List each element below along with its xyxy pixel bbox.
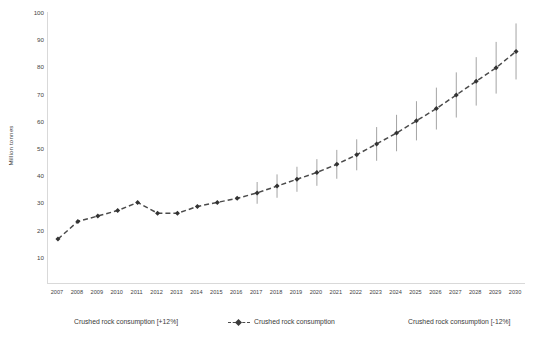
x-tick-label: 2019 [290, 288, 302, 296]
y-tick-label: 20 [22, 226, 44, 233]
x-tick-label: 2015 [210, 288, 222, 296]
legend-label: Crushed rock consumption [+12%] [74, 316, 178, 328]
x-tick-label: 2018 [270, 288, 282, 296]
chart-legend: Crushed rock consumption [+12%]Crushed r… [0, 316, 535, 334]
x-axis-tick-labels: 2007200820092010201120122013201420152016… [47, 288, 525, 300]
y-tick-label: 50 [22, 145, 44, 152]
y-axis-title-label: Million tonnes [8, 125, 15, 165]
x-tick-label: 2029 [489, 288, 501, 296]
y-tick-label: 30 [22, 199, 44, 206]
data-point-marker [314, 170, 319, 175]
x-tick-label: 2023 [369, 288, 381, 296]
data-point-marker [294, 177, 299, 182]
y-tick-label: 80 [22, 63, 44, 70]
x-tick-label: 2020 [310, 288, 322, 296]
x-tick-label: 2011 [131, 288, 143, 296]
data-point-marker [215, 200, 220, 205]
legend-marker-icon [228, 318, 250, 326]
data-point-marker [155, 211, 160, 216]
series-layer [48, 12, 526, 284]
y-tick-label: 90 [22, 36, 44, 43]
x-tick-label: 2009 [91, 288, 103, 296]
main-series-line [58, 51, 516, 239]
x-tick-label: 2027 [449, 288, 461, 296]
data-point-marker [95, 214, 100, 219]
x-tick-label: 2030 [509, 288, 521, 296]
plot-area [47, 12, 525, 284]
x-tick-label: 2021 [330, 288, 342, 296]
y-tick-label: 10 [22, 253, 44, 260]
data-point-marker [175, 211, 180, 216]
x-tick-label: 2013 [170, 288, 182, 296]
crushed-rock-consumption-chart: Million tonnes 102030405060708090100 200… [0, 0, 535, 344]
data-point-marker [195, 204, 200, 209]
legend-entry[interactable]: Crushed rock consumption [+12%] [70, 316, 178, 328]
x-tick-label: 2022 [349, 288, 361, 296]
data-point-marker [275, 184, 280, 189]
x-tick-label: 2028 [469, 288, 481, 296]
x-tick-label: 2012 [150, 288, 162, 296]
x-tick-label: 2014 [190, 288, 202, 296]
x-tick-label: 2016 [230, 288, 242, 296]
data-point-marker [334, 162, 339, 167]
data-point-marker [115, 208, 120, 213]
x-tick-label: 2007 [51, 288, 63, 296]
data-point-marker [255, 190, 260, 195]
x-tick-label: 2026 [429, 288, 441, 296]
x-tick-label: 2017 [250, 288, 262, 296]
legend-label: Crushed rock consumption [-12%] [408, 316, 510, 328]
y-tick-label: 40 [22, 172, 44, 179]
x-tick-label: 2010 [110, 288, 122, 296]
x-tick-label: 2025 [409, 288, 421, 296]
legend-entry[interactable]: Crushed rock consumption [-12%] [404, 316, 510, 328]
x-tick-label: 2008 [71, 288, 83, 296]
x-tick-label: 2024 [389, 288, 401, 296]
y-tick-label: 60 [22, 117, 44, 124]
y-axis-tick-labels: 102030405060708090100 [19, 12, 44, 284]
y-tick-label: 70 [22, 90, 44, 97]
data-point-marker [235, 196, 240, 201]
legend-entry[interactable]: Crushed rock consumption [228, 316, 335, 328]
legend-label: Crushed rock consumption [254, 316, 335, 328]
y-tick-label: 100 [22, 9, 44, 16]
